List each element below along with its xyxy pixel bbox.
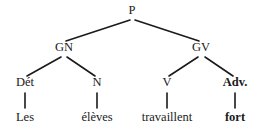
gn-to-n xyxy=(67,57,95,76)
gn-to-det xyxy=(27,57,61,76)
word-travaillent: travaillent xyxy=(142,111,193,124)
node-gv: GV xyxy=(192,41,210,54)
node-p: P xyxy=(129,4,136,17)
node-det: Dét xyxy=(16,76,34,89)
word-eleves: élèves xyxy=(81,111,112,124)
node-v: V xyxy=(162,76,171,89)
node-gn: GN xyxy=(55,41,73,54)
syntax-tree-figure: P GN GV Dét N V Adv. Les élèves travaill… xyxy=(0,0,266,133)
gv-to-adv xyxy=(205,57,233,76)
word-fort: fort xyxy=(225,111,245,124)
word-les: Les xyxy=(16,111,34,124)
node-adv: Adv. xyxy=(223,76,248,89)
gv-to-v xyxy=(169,57,198,76)
p-to-gn xyxy=(66,20,130,41)
node-n: N xyxy=(92,76,101,89)
p-to-gv xyxy=(135,20,199,41)
